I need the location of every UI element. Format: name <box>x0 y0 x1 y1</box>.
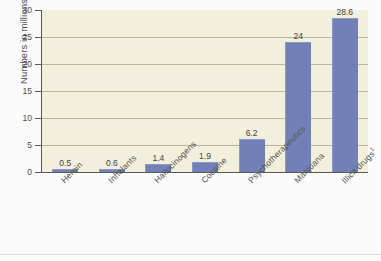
bar-value-label: 24 <box>278 31 318 41</box>
y-axis-tick-label: 25 <box>2 32 32 42</box>
y-axis-tick-label: 5 <box>2 140 32 150</box>
y-axis-tick <box>35 37 42 38</box>
plot-area <box>42 10 368 172</box>
bar <box>285 42 311 172</box>
gridline <box>42 91 368 92</box>
y-axis-tick <box>35 91 42 92</box>
y-axis-tick <box>35 172 42 173</box>
bar <box>332 18 358 172</box>
y-axis-tick-label: 20 <box>2 59 32 69</box>
y-axis-tick-label: 15 <box>2 86 32 96</box>
y-axis-tick-label: 10 <box>2 113 32 123</box>
y-axis-tick <box>35 118 42 119</box>
gridline <box>42 145 368 146</box>
gridline <box>42 118 368 119</box>
y-axis-tick-label: 0 <box>2 167 32 177</box>
bar-chart-figure: Numbers in millions 302520151050 0.50.61… <box>0 0 381 261</box>
y-axis-tick <box>35 64 42 65</box>
y-axis-tick <box>35 145 42 146</box>
gridline <box>42 64 368 65</box>
bar-value-label: 28.6 <box>325 7 365 17</box>
y-axis-tick-label: 30 <box>2 5 32 15</box>
gridline <box>42 37 368 38</box>
bar-value-label: 6.2 <box>232 128 272 138</box>
y-axis-tick <box>35 10 42 11</box>
